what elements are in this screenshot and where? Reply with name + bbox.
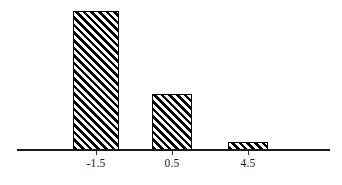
x-axis-line: [17, 149, 330, 151]
x-axis-tick-label: 4.5: [218, 157, 278, 169]
bar-0-5: [152, 94, 192, 150]
bar-chart: -1.5 0.5 4.5: [0, 0, 342, 185]
x-axis-tick-label: -1.5: [66, 157, 126, 169]
x-axis-tick: [172, 150, 173, 155]
x-axis-tick-label: 0.5: [142, 157, 202, 169]
x-axis-tick: [248, 150, 249, 155]
plot-area: -1.5 0.5 4.5: [0, 0, 342, 185]
bar-minus-1-5: [73, 11, 119, 150]
x-axis-tick: [96, 150, 97, 155]
